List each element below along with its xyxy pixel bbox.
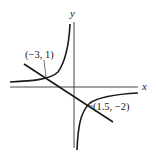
x-axis-label: x	[141, 80, 147, 92]
point-label-1: (−3, 1)	[25, 49, 54, 61]
line	[24, 64, 113, 122]
point-label-2: (1.5, −2)	[93, 101, 130, 113]
y-axis-label: y	[69, 7, 75, 19]
leader-point-1	[44, 60, 46, 77]
graph: x y (−3, 1) (1.5, −2)	[0, 0, 156, 156]
